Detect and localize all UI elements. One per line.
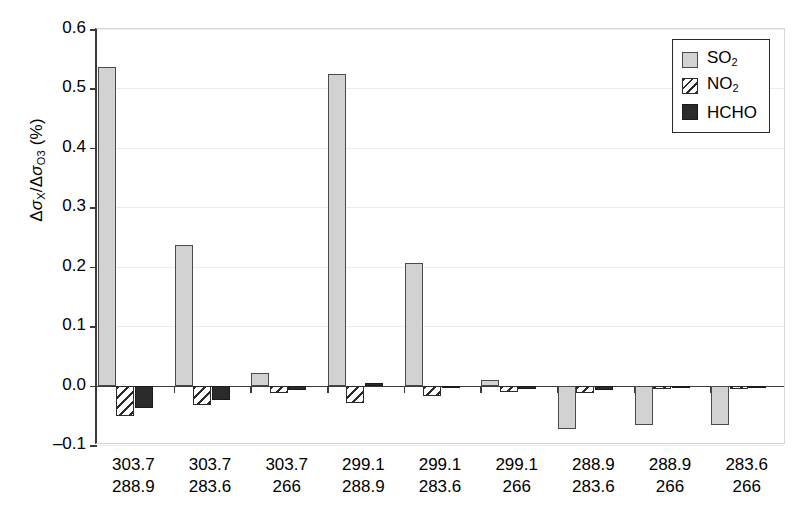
bar-group [98, 29, 153, 443]
x-axis-tick-label: 299.1288.9 [325, 454, 402, 498]
x-label-line-1: 303.7 [172, 454, 249, 476]
bar-so2 [251, 373, 269, 385]
bar-no2 [270, 386, 288, 393]
y-axis-tick-label: 0.0 [30, 376, 86, 393]
bar-group [405, 29, 460, 443]
bar-so2 [711, 386, 729, 425]
bar-no2 [730, 386, 748, 389]
y-axis-tickmark [90, 29, 97, 31]
y-axis-tickmark [90, 148, 97, 150]
x-label-line-1: 303.7 [95, 454, 172, 476]
x-axis-tick-label: 303.7288.9 [95, 454, 172, 498]
y-axis-tick-label: –0.1 [30, 435, 86, 452]
bar-so2 [558, 386, 576, 429]
bar-hcho [672, 386, 690, 388]
legend-label: SO2 [707, 49, 738, 71]
bar-no2 [193, 386, 211, 405]
y-axis-tick-label: 0.2 [30, 257, 86, 274]
x-label-line-1: 299.1 [478, 454, 555, 476]
bar-hcho [365, 383, 383, 385]
bar-group [328, 29, 383, 443]
legend-swatch-so2 [682, 52, 698, 68]
x-axis-tick-label: 303.7266 [248, 454, 325, 498]
plot-area: SO2NO2HCHO [95, 28, 785, 444]
x-label-line-1: 288.9 [555, 454, 632, 476]
gridline [97, 445, 784, 446]
y-axis-tickmark [90, 445, 97, 447]
x-label-line-2: 288.9 [95, 476, 172, 498]
bar-hcho [748, 386, 766, 388]
bar-group [558, 29, 613, 443]
bar-group [251, 29, 306, 443]
y-axis-tickmark [90, 326, 97, 328]
legend-item-so2: SO2 [682, 47, 757, 73]
x-axis-tick-label: 299.1266 [478, 454, 555, 498]
bar-hcho [442, 386, 460, 388]
bar-hcho [288, 386, 306, 391]
y-axis-tick-label: 0.4 [30, 138, 86, 155]
y-axis-tick-label: 0.5 [30, 78, 86, 95]
bar-hcho [135, 386, 153, 408]
y-axis-tickmark [90, 386, 97, 388]
x-label-line-2: 266 [708, 476, 785, 498]
legend-item-no2: NO2 [682, 73, 757, 99]
bar-hcho [518, 386, 536, 389]
x-label-line-1: 299.1 [325, 454, 402, 476]
bar-hcho [212, 386, 230, 401]
x-label-line-2: 288.9 [325, 476, 402, 498]
x-label-line-1: 288.9 [632, 454, 709, 476]
legend-label: NO2 [707, 75, 739, 97]
legend-swatch-hcho [682, 104, 698, 120]
legend: SO2NO2HCHO [672, 39, 770, 133]
x-axis-tick-label: 303.7283.6 [172, 454, 249, 498]
x-label-line-2: 266 [632, 476, 709, 498]
legend-label: HCHO [707, 104, 757, 121]
x-label-line-1: 283.6 [708, 454, 785, 476]
bar-no2 [346, 386, 364, 404]
y-axis-tick-label: 0.1 [30, 316, 86, 333]
y-axis-tick-label: 0.6 [30, 19, 86, 36]
x-label-line-2: 283.6 [555, 476, 632, 498]
x-axis-tick-label: 299.1283.6 [402, 454, 479, 498]
bar-so2 [635, 386, 653, 426]
bar-so2 [98, 67, 116, 386]
y-axis-tickmark [90, 88, 97, 90]
bar-no2 [653, 386, 671, 390]
x-label-line-1: 299.1 [402, 454, 479, 476]
x-axis-tick-label: 288.9266 [632, 454, 709, 498]
legend-item-hcho: HCHO [682, 99, 757, 125]
x-label-line-2: 266 [248, 476, 325, 498]
x-label-line-2: 283.6 [402, 476, 479, 498]
y-axis-tick-label: 0.3 [30, 197, 86, 214]
x-axis-tick-label: 288.9283.6 [555, 454, 632, 498]
bar-no2 [500, 386, 518, 392]
bar-group [481, 29, 536, 443]
x-axis-tick-label: 283.6266 [708, 454, 785, 498]
bar-so2 [328, 74, 346, 386]
legend-swatch-no2 [682, 78, 698, 94]
bar-so2 [405, 263, 423, 386]
bar-so2 [175, 245, 193, 386]
bar-group [175, 29, 230, 443]
bar-no2 [423, 386, 441, 397]
bar-no2 [116, 386, 134, 417]
x-label-line-2: 266 [478, 476, 555, 498]
x-label-line-2: 283.6 [172, 476, 249, 498]
y-axis-tickmark [90, 267, 97, 269]
x-label-line-1: 303.7 [248, 454, 325, 476]
chart-figure: ΔσX/ΔσO3 (%) 0.60.50.40.30.20.10.0–0.1 S… [0, 0, 806, 521]
bar-no2 [576, 386, 594, 394]
y-axis-tickmark [90, 207, 97, 209]
x-axis-tick-labels: 303.7288.9303.7283.6303.7266299.1288.929… [95, 450, 785, 510]
bar-so2 [481, 380, 499, 385]
bar-hcho [595, 386, 613, 390]
y-axis-tick-labels: 0.60.50.40.30.20.10.0–0.1 [24, 0, 86, 521]
